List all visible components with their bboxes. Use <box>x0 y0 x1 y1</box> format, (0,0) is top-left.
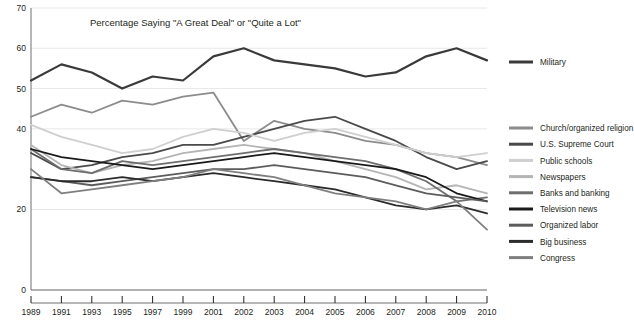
y-axis: 02040506070 <box>17 3 31 295</box>
x-tick-label: 1991 <box>52 307 71 317</box>
legend-label: Television news <box>540 205 597 214</box>
x-tick-label: 1999 <box>174 307 193 317</box>
x-tick-label: 2001 <box>204 307 223 317</box>
x-tick-label: 2007 <box>386 307 405 317</box>
x-tick-label: 2003 <box>265 307 284 317</box>
y-tick-label: 70 <box>17 3 27 13</box>
series-lines <box>31 48 487 229</box>
confidence-in-institutions-chart: 02040506070 1989199119931995199719992001… <box>0 0 634 326</box>
y-tick-label: 50 <box>17 84 27 94</box>
legend-label: Military <box>540 58 567 67</box>
x-tick-label: 2010 <box>478 307 497 317</box>
x-tick-label: 2005 <box>326 307 345 317</box>
chart-canvas: 02040506070 1989199119931995199719992001… <box>0 0 634 326</box>
x-tick-label: 1997 <box>143 307 162 317</box>
legend-label: Church/organized religion <box>540 124 634 133</box>
legend-label: Congress <box>540 254 575 263</box>
chart-legend: MilitaryChurch/organized religionU.S. Su… <box>509 58 634 263</box>
legend-label: Banks and banking <box>540 189 610 198</box>
x-tick-label: 2006 <box>356 307 375 317</box>
legend-label: Newspapers <box>540 173 586 182</box>
legend-label: U.S. Supreme Court <box>540 140 614 149</box>
y-tick-label: 0 <box>21 285 26 295</box>
chart-title: Percentage Saying "A Great Deal" or "Qui… <box>90 17 301 28</box>
x-tick-label: 1989 <box>22 307 41 317</box>
x-tick-label: 2002 <box>234 307 253 317</box>
y-tick-label: 40 <box>17 124 27 134</box>
x-axis: 1989199119931995199719992001200220032004… <box>22 290 497 317</box>
legend-label: Organized labor <box>540 221 599 230</box>
x-tick-label: 2008 <box>417 307 436 317</box>
gridlines <box>31 8 487 290</box>
legend-label: Big business <box>540 238 586 247</box>
series-line-military <box>31 48 487 88</box>
y-tick-label: 60 <box>17 43 27 53</box>
x-tick-label: 2004 <box>295 307 314 317</box>
x-tick-label: 2009 <box>447 307 466 317</box>
y-tick-label: 20 <box>17 204 27 214</box>
x-tick-label: 1995 <box>113 307 132 317</box>
x-tick-label: 1993 <box>82 307 101 317</box>
legend-label: Public schools <box>540 157 592 166</box>
